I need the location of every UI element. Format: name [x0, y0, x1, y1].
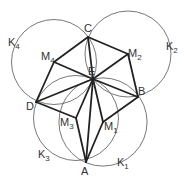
label-M4: M4 [41, 50, 55, 65]
label-point-B: B [138, 85, 145, 97]
segment-m3-a [76, 118, 86, 162]
segment-c-m4 [54, 37, 88, 62]
segment-e-m2 [93, 54, 128, 79]
label-point-E: E [88, 65, 95, 77]
label-point-D: D [26, 100, 34, 112]
segment-e-m1 [93, 79, 103, 122]
label-M1: M1 [104, 120, 118, 135]
label-point-C: C [84, 22, 92, 34]
segment-m2-c [88, 37, 128, 54]
segment-m1-b [103, 97, 138, 122]
geometry-diagram: C E B D A M4 M2 M3 M1 K4 K2 K3 K1 [0, 0, 185, 189]
label-K2: K2 [166, 40, 178, 55]
label-point-A: A [81, 165, 89, 177]
label-M3: M3 [60, 116, 74, 131]
circles [12, 11, 172, 166]
